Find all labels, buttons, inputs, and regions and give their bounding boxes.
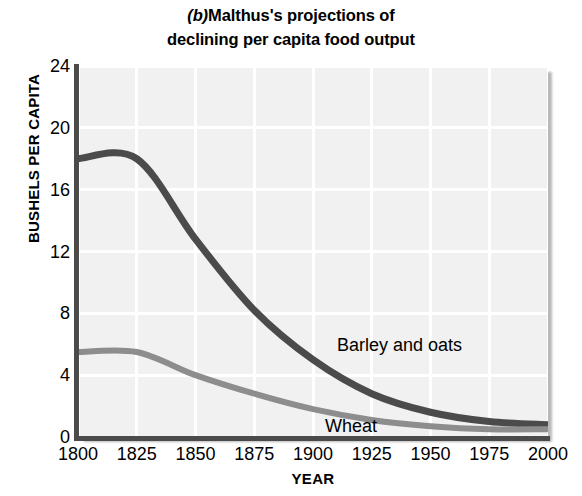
plot-area: Barley and oats Wheat [78,66,548,437]
x-tick-label: 1825 [105,444,169,465]
series-line-barley-and-oats [78,153,548,425]
panel-letter: (b) [187,6,208,24]
series-label-wheat: Wheat [325,416,377,437]
chart-title-text-1: Malthus's projections of [208,6,395,24]
x-tick-label: 1900 [281,444,345,465]
y-tick-label: 24 [10,56,70,77]
y-tick-label: 4 [10,365,70,386]
y-axis-line [74,64,79,441]
chart-title: (b)Malthus's projections of declining pe… [0,4,582,52]
x-axis-line [74,436,550,441]
chart-title-line-2: declining per capita food output [0,28,582,52]
x-tick-label: 1950 [399,444,463,465]
series-layer [78,66,548,437]
x-axis-title: YEAR [78,470,548,487]
y-axis-tick-labels: 04812162024 [4,0,70,496]
x-tick-label: 1800 [46,444,110,465]
x-tick-label: 1975 [457,444,521,465]
x-tick-label: 2000 [516,444,580,465]
y-tick-label: 8 [10,303,70,324]
y-tick-label: 20 [10,117,70,138]
y-tick-label: 16 [10,179,70,200]
x-tick-label: 1925 [340,444,404,465]
chart-title-line-1: (b)Malthus's projections of [0,4,582,28]
x-tick-label: 1850 [164,444,228,465]
y-tick-label: 12 [10,241,70,262]
series-label-barley-and-oats: Barley and oats [337,335,462,356]
x-tick-label: 1875 [222,444,286,465]
